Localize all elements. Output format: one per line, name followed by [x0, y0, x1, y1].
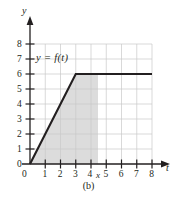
- x-tick-label-2: 2: [58, 170, 63, 180]
- x-tick-label-6: 6: [119, 170, 124, 180]
- y-axis-label: y: [22, 6, 26, 16]
- y-tick-label-4: 4: [17, 100, 22, 110]
- function-label: y = f(t): [36, 53, 68, 64]
- y-axis: [27, 16, 34, 164]
- y-tick-label-2: 2: [17, 130, 22, 140]
- x-tick-label-1: 1: [43, 170, 48, 180]
- x-tick-label-5: 5: [104, 170, 109, 180]
- figure-b: y t 0 1 2 3 4 5 6 7 8 0 1 2 3 4 5 6 7 8 …: [0, 0, 177, 202]
- x-axis-label: t: [166, 163, 169, 173]
- x-tick-label-7: 7: [134, 170, 139, 180]
- x-tick-label-8: 8: [149, 170, 154, 180]
- x-variable-marker: x: [96, 171, 100, 180]
- y-tick-label-3: 3: [17, 115, 22, 125]
- y-tick-label-8: 8: [17, 40, 22, 50]
- figure-caption: (b): [0, 181, 177, 191]
- x-tick-label-3: 3: [73, 170, 78, 180]
- x-tick-label-0: 0: [22, 170, 27, 180]
- y-tick-label-7: 7: [17, 55, 22, 65]
- y-tick-label-5: 5: [17, 85, 22, 95]
- y-tick-label-6: 6: [17, 70, 22, 80]
- x-tick-label-4: 4: [88, 170, 93, 180]
- y-tick-label-1: 1: [17, 145, 22, 155]
